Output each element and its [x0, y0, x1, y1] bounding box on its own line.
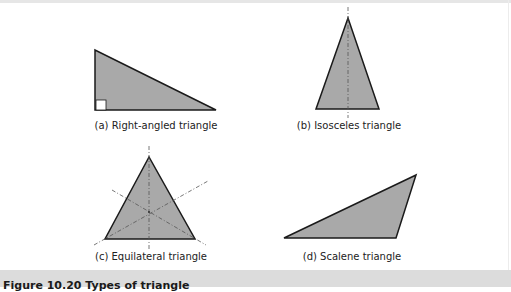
right-angle-marker: [96, 100, 106, 110]
right-angled-triangle: [95, 50, 216, 110]
panel-a-right-angled: [95, 50, 216, 110]
label-scalene: (d) Scalene triangle: [303, 251, 401, 262]
label-equilateral: (c) Equilateral triangle: [95, 251, 207, 262]
label-isosceles: (b) Isosceles triangle: [297, 120, 401, 131]
centroid-point: [148, 211, 150, 213]
equilateral-triangle: [105, 157, 195, 239]
scalene-triangle: [284, 175, 416, 238]
figure-caption: Figure 10.20 Types of triangle: [3, 279, 189, 292]
panel-c-equilateral: [94, 146, 208, 250]
isosceles-triangle: [316, 18, 379, 109]
panel-b-isosceles: [316, 7, 379, 118]
label-right-angled: (a) Right-angled triangle: [95, 120, 218, 131]
panel-d-scalene: [284, 175, 416, 238]
